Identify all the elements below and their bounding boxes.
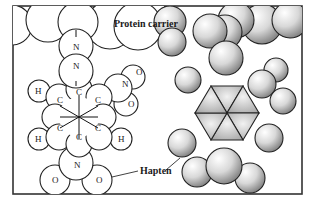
protein-carrier-label: Protein carrier	[114, 18, 179, 29]
atom-c: C	[76, 132, 82, 142]
atom-o: O	[128, 99, 135, 109]
atom-n: N	[73, 61, 80, 71]
atom-c: C	[76, 87, 82, 97]
atom-o: O	[136, 67, 143, 77]
atom-h: H	[35, 134, 42, 144]
atom-n: N	[122, 79, 129, 89]
atom-c: C	[57, 123, 63, 133]
hapten-leader-line	[112, 171, 138, 177]
atom-c: C	[57, 95, 63, 105]
hapten-label: Hapten	[140, 165, 172, 176]
hapten-carrier-diagram: Protein carrier Hapten N N N N O O O O C…	[0, 0, 310, 210]
atom-o: O	[96, 175, 103, 185]
atom-n: N	[74, 160, 81, 170]
atom-o: O	[52, 175, 59, 185]
atom-c: C	[95, 95, 101, 105]
atom-n: N	[73, 42, 80, 52]
atom-c: C	[95, 123, 101, 133]
atom-h: H	[118, 134, 125, 144]
atom-h: H	[35, 86, 42, 96]
benzene-ring-triangles	[195, 86, 259, 140]
